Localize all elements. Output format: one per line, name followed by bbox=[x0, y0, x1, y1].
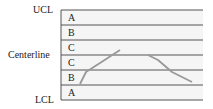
zone-label-a-lower: A bbox=[68, 88, 75, 98]
ucl-label: UCL bbox=[33, 5, 53, 15]
centerline-label: Centerline bbox=[8, 50, 50, 60]
zone-label-b-lower: B bbox=[68, 73, 75, 83]
zone-label-a-upper: A bbox=[68, 13, 75, 23]
lcl-label: LCL bbox=[35, 95, 54, 105]
zone-label-c-lower: C bbox=[68, 58, 75, 68]
zone-label-b-upper: B bbox=[68, 28, 75, 38]
zone-label-c-upper: C bbox=[68, 43, 75, 53]
